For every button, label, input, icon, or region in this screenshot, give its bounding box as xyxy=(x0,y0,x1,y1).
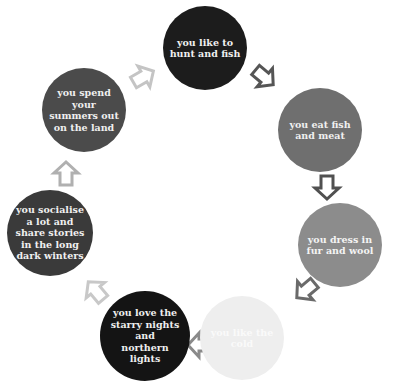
cycle-node-summers: you spendyoursummers outon the land xyxy=(42,68,126,152)
node-label: you like tohunt and fish xyxy=(170,37,241,60)
cycle-diagram: you like tohunt and fishyou eat fishand … xyxy=(0,0,400,391)
arrow-icon xyxy=(248,61,281,94)
cycle-node-socialise: you socialisea lot andshare storiesin th… xyxy=(7,190,93,276)
node-label: you dress infur and wool xyxy=(307,234,374,257)
node-label-line: and meat xyxy=(289,130,350,142)
node-label-line: you spend xyxy=(49,87,119,99)
node-label-line: you dress in xyxy=(307,234,374,246)
node-label-line: hunt and fish xyxy=(170,48,241,60)
node-label-line: cold xyxy=(211,338,274,350)
cycle-node-dress: you dress infur and wool xyxy=(298,203,382,287)
node-label-line: and xyxy=(111,330,180,342)
node-label-line: lights xyxy=(111,353,180,365)
cycle-node-stars: you love thestarry nightsandnorthernligh… xyxy=(100,291,190,381)
arrow-icon xyxy=(79,274,112,307)
node-label-line: summers out xyxy=(49,110,119,122)
node-label: you love thestarry nightsandnorthernligh… xyxy=(111,307,180,365)
arrow-icon xyxy=(127,61,159,93)
node-label-line: a lot and xyxy=(16,216,85,228)
node-label-line: share stories xyxy=(16,227,85,239)
node-label: you socialisea lot andshare storiesin th… xyxy=(16,204,85,262)
node-label: you eat fishand meat xyxy=(289,119,350,142)
arrow-icon xyxy=(54,162,78,185)
node-label-line: northern xyxy=(111,342,180,354)
node-label-line: you eat fish xyxy=(289,119,350,131)
arrow-icon xyxy=(315,176,339,199)
node-label-line: fur and wool xyxy=(307,245,374,257)
node-label-line: starry nights xyxy=(111,319,180,331)
node-label-line: in the long xyxy=(16,239,85,251)
node-label-line: you socialise xyxy=(16,204,85,216)
node-label: you like thecold xyxy=(211,327,274,350)
node-label-line: your xyxy=(49,99,119,111)
node-label-line: on the land xyxy=(49,122,119,134)
node-label-line: you like to xyxy=(170,37,241,49)
node-label: you spendyoursummers outon the land xyxy=(49,87,119,133)
cycle-node-eat: you eat fishand meat xyxy=(278,88,362,172)
cycle-node-hunt: you like tohunt and fish xyxy=(163,6,247,90)
node-label-line: you love the xyxy=(111,307,180,319)
cycle-node-cold: you like thecold xyxy=(200,296,284,380)
node-label-line: dark winters xyxy=(16,250,85,262)
node-label-line: you like the xyxy=(211,327,274,339)
